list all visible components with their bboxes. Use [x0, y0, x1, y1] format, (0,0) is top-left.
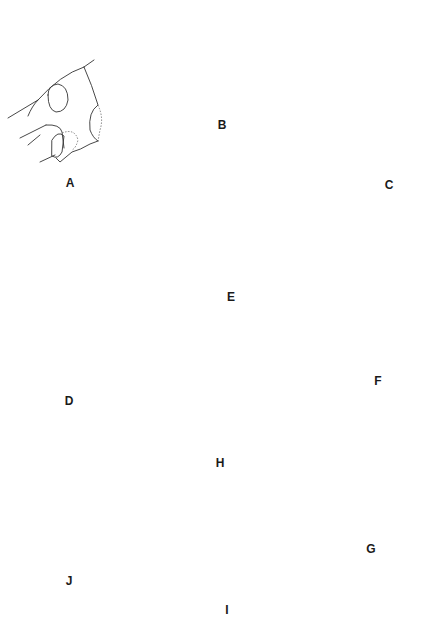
panel-label-i: I	[225, 603, 228, 617]
panel-label-h: H	[216, 456, 225, 470]
panel-label-f: F	[374, 374, 381, 388]
panel-label-a: A	[66, 176, 75, 190]
panel-label-j: J	[66, 574, 73, 588]
panel-a-drawing	[8, 60, 102, 162]
panel-label-d: D	[65, 394, 74, 408]
panel-label-b: B	[218, 118, 227, 132]
panel-label-c: C	[385, 178, 394, 192]
panel-label-e: E	[227, 290, 235, 304]
figure-plate	[0, 0, 425, 621]
panel-label-g: G	[366, 542, 375, 556]
